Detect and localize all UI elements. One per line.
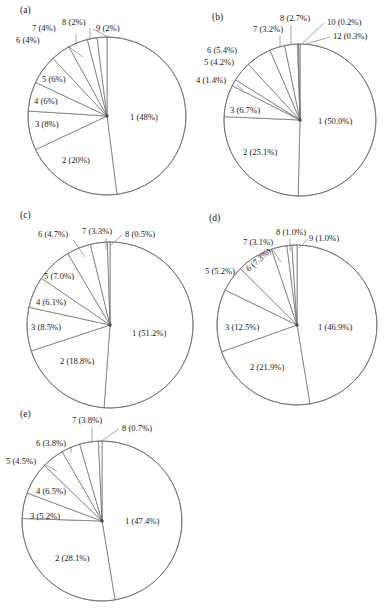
slice-label: 4 (1.4%) bbox=[196, 75, 226, 85]
slice-label: 1 (46.9%) bbox=[318, 322, 353, 332]
pie-center-hub bbox=[100, 519, 103, 522]
panel-tag-b: (b) bbox=[212, 12, 223, 23]
slice-label: 5 (6%) bbox=[42, 74, 66, 84]
panel-e: (e)1 (47.4%)2 (28.1%)3 (5.2%)4 (6.5%)5 (… bbox=[6, 409, 182, 601]
slice-label: 3 (8%) bbox=[35, 119, 59, 129]
slice-label: 5 (4.2%) bbox=[204, 57, 234, 67]
slice-label: 8 (1.0%) bbox=[276, 227, 306, 237]
slice-label: 7 (3.2%) bbox=[253, 24, 283, 34]
slice-label: 2 (28.1%) bbox=[55, 553, 90, 563]
pie-center-hub bbox=[295, 323, 298, 326]
slice-label: 4 (6%) bbox=[34, 96, 58, 106]
pie-chart-figure: (a)1 (48%)2 (20%)3 (8%)4 (6%)5 (6%)6 (4%… bbox=[0, 0, 384, 612]
slice-label: 1 (47.4%) bbox=[125, 516, 160, 526]
slice-label: 3 (5.2%) bbox=[30, 511, 60, 521]
slice-label: 8 (0.7%) bbox=[122, 423, 152, 433]
slice-label: 7 (3.1%) bbox=[243, 237, 273, 247]
slice-label: 6 (5.4%) bbox=[207, 45, 237, 55]
leader-line bbox=[306, 37, 330, 44]
slice-label: 5 (4.5%) bbox=[6, 456, 36, 466]
leader-line bbox=[303, 23, 324, 43]
slice-label: 3 (6.7%) bbox=[230, 105, 260, 115]
slice-label: 1 (51.2%) bbox=[132, 328, 167, 338]
slice-label: 6 (4%) bbox=[16, 35, 40, 45]
slice-label: 2 (25.1%) bbox=[243, 147, 278, 157]
slice-label: 1 (50.0%) bbox=[318, 116, 353, 126]
slice-label: 6 (4.7%) bbox=[38, 229, 68, 239]
slice-label: 7 (4%) bbox=[32, 23, 56, 33]
slice-label: 9 (1.0%) bbox=[309, 233, 339, 243]
slice-label: 1 (48%) bbox=[130, 112, 158, 122]
slice-label: 7 (3.3%) bbox=[82, 226, 112, 236]
slice-label: 8 (2.7%) bbox=[280, 13, 310, 23]
leader-line bbox=[103, 429, 119, 440]
slice-label: 5 (7.0%) bbox=[44, 271, 74, 281]
slice-label: 12 (0.3%) bbox=[333, 31, 368, 41]
slice-label: 10 (0.2%) bbox=[327, 17, 362, 27]
pie-center-hub bbox=[298, 118, 301, 121]
slice-label: 2 (20%) bbox=[62, 155, 90, 165]
slice-label: 8 (0.5%) bbox=[125, 229, 155, 239]
panel-b: (b)1 (50.0%)2 (25.1%)3 (6.7%)4 (1.4%)5 (… bbox=[196, 12, 376, 196]
slice-label: 8 (2%) bbox=[62, 17, 86, 27]
slice-label: 3 (12.5%) bbox=[225, 322, 260, 332]
panel-tag-a: (a) bbox=[20, 5, 31, 16]
panel-c: (c)1 (51.2%)2 (18.8%)3 (8.5%)4 (6.1%)5 (… bbox=[20, 210, 193, 408]
slice-label: 5 (5.2%) bbox=[205, 266, 235, 276]
slice-label: 6 (3.8%) bbox=[36, 438, 66, 448]
pie-center-hub bbox=[105, 114, 108, 117]
slice-label: 2 (18.8%) bbox=[60, 356, 95, 366]
slice-label: 9 (2%) bbox=[96, 23, 120, 33]
panel-tag-c: (c) bbox=[20, 210, 31, 221]
slice-label: 4 (6.5%) bbox=[36, 486, 66, 496]
panel-tag-e: (e) bbox=[20, 409, 31, 420]
panel-a: (a)1 (48%)2 (20%)3 (8%)4 (6%)5 (6%)6 (4%… bbox=[16, 5, 186, 195]
slice-label: 2 (21.9%) bbox=[250, 362, 285, 372]
pie-center-hub bbox=[108, 323, 111, 326]
slice-label: 3 (8.5%) bbox=[31, 322, 61, 332]
slice-label: 7 (3.8%) bbox=[72, 415, 102, 425]
slice-label: 4 (6.1%) bbox=[36, 297, 66, 307]
panel-tag-d: (d) bbox=[209, 213, 220, 224]
pie-slice-1 bbox=[104, 242, 193, 408]
panel-d: (d)1 (46.9%)2 (21.9%)3 (12.5%)5 (5.2%)6 … bbox=[205, 213, 377, 405]
